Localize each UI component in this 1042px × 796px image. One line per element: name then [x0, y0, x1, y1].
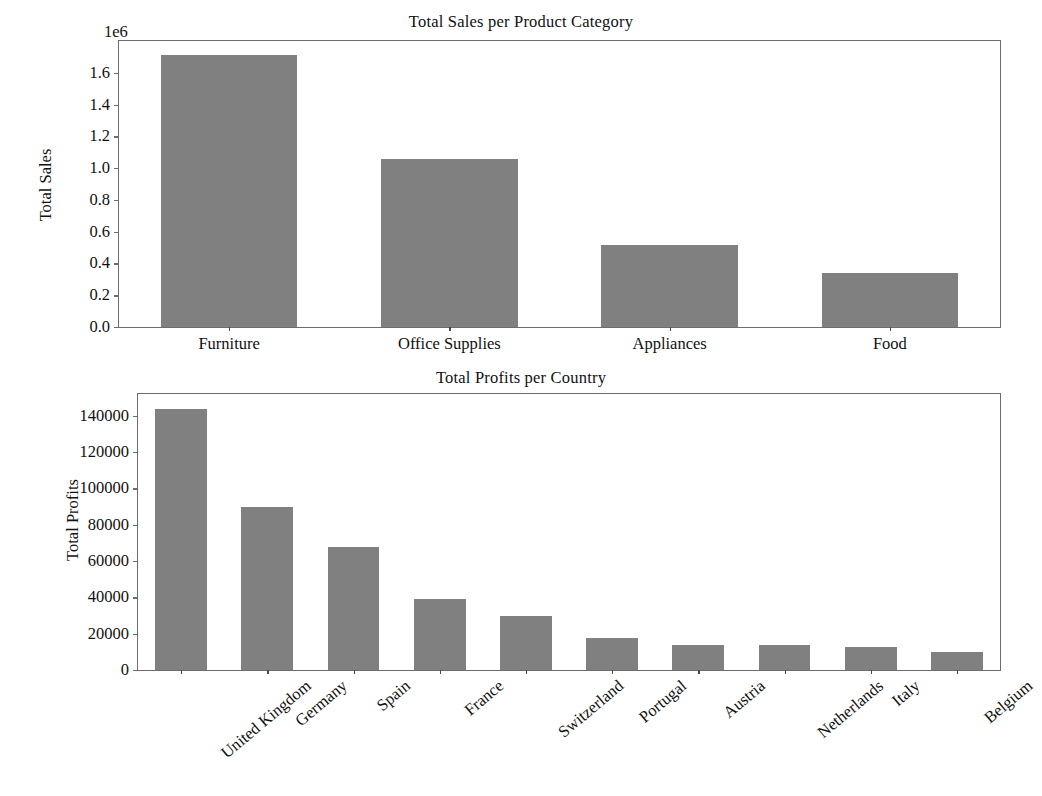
y-axis-tick [133, 525, 138, 526]
chart-panel-profits: Total Profits per Country Total Profits … [0, 360, 1042, 796]
y-axis-tick [114, 168, 119, 169]
y-axis-tick [114, 327, 119, 328]
x-axis-tick [181, 670, 182, 674]
bar [586, 638, 638, 670]
x-axis-tick-label: Belgium [980, 676, 1036, 728]
y-axis-tick [133, 416, 138, 417]
x-axis-tick [267, 670, 268, 674]
bar [241, 507, 293, 670]
y-axis-tick [133, 452, 138, 453]
x-axis-tick-label: Switzerland [554, 676, 627, 742]
chart-title-sales: Total Sales per Product Category [0, 12, 1042, 32]
y-axis-tick-label: 0.8 [89, 190, 110, 210]
y-axis-label-sales: Total Sales [36, 125, 56, 245]
x-axis-tick [957, 670, 958, 674]
plot-area-profits: 020000400006000080000100000120000140000U… [137, 393, 1001, 671]
bar [381, 159, 518, 327]
y-axis-tick-label: 100000 [80, 478, 130, 498]
y-axis-tick-label: 1.0 [89, 158, 110, 178]
y-axis-tick [114, 295, 119, 296]
x-axis-tick-label: Italy [888, 676, 924, 711]
y-axis-tick [133, 488, 138, 489]
x-axis-tick [670, 327, 671, 331]
bar [672, 645, 724, 670]
bar [845, 647, 897, 670]
y-axis-tick [133, 634, 138, 635]
y-axis-tick-label: 1.6 [89, 63, 110, 83]
x-axis-tick-label: Appliances [633, 334, 707, 354]
bar [759, 645, 811, 670]
y-axis-tick [114, 200, 119, 201]
bar [414, 599, 466, 670]
bar-series-profits: 020000400006000080000100000120000140000U… [138, 394, 1000, 670]
x-axis-tick [354, 670, 355, 674]
y-axis-tick-label: 20000 [88, 624, 129, 644]
y-axis-tick-label: 0.4 [89, 253, 110, 273]
y-axis-label-profits: Total Profits [63, 455, 83, 585]
plot-area-sales: 0.00.20.40.60.81.01.21.41.6FurnitureOffi… [118, 40, 1001, 328]
x-axis-tick [449, 327, 450, 331]
y-axis-tick [114, 232, 119, 233]
chart-panel-sales: Total Sales per Product Category 1e6 Tot… [0, 0, 1042, 368]
y-axis-tick [133, 597, 138, 598]
x-axis-tick [698, 670, 699, 674]
y-axis-tick-label: 80000 [88, 515, 129, 535]
bar [161, 55, 298, 327]
y-axis-tick-label: 0.0 [89, 317, 110, 337]
x-axis-tick-label: Furniture [198, 334, 259, 354]
y-axis-tick-label: 1.4 [89, 95, 110, 115]
x-axis-tick-label: France [460, 676, 507, 720]
y-axis-tick-label: 40000 [88, 587, 129, 607]
y-axis-tick-label: 1.2 [89, 126, 110, 146]
bar-series-sales: 0.00.20.40.60.81.01.21.41.6FurnitureOffi… [119, 41, 1000, 327]
x-axis-tick-label: Office Supplies [398, 334, 501, 354]
x-axis-tick-label: Austria [720, 676, 770, 723]
y-axis-tick-label: 0.6 [89, 222, 110, 242]
x-axis-tick [890, 327, 891, 331]
bar [328, 547, 380, 670]
x-axis-tick [440, 670, 441, 674]
x-axis-tick [229, 327, 230, 331]
y-axis-tick [133, 561, 138, 562]
x-axis-tick-label: Netherlands [813, 676, 887, 743]
x-axis-tick-label: Food [873, 334, 907, 354]
y-axis-tick [114, 105, 119, 106]
bar [822, 273, 959, 327]
y-axis-tick-label: 0.2 [89, 285, 110, 305]
x-axis-tick [871, 670, 872, 674]
x-axis-tick-label: Portugal [635, 676, 691, 727]
figure-canvas: Total Sales per Product Category 1e6 Tot… [0, 0, 1042, 796]
y-axis-tick [114, 136, 119, 137]
x-axis-tick-label: Spain [372, 676, 414, 715]
y-axis-tick [114, 73, 119, 74]
x-axis-tick [785, 670, 786, 674]
y-axis-tick-label: 60000 [88, 551, 129, 571]
x-axis-tick [612, 670, 613, 674]
y-axis-tick [114, 263, 119, 264]
y-axis-tick [133, 670, 138, 671]
y-axis-tick-label: 120000 [80, 442, 130, 462]
y-axis-tick-label: 0 [121, 660, 129, 680]
y-axis-tick-label: 140000 [80, 406, 130, 426]
bar [500, 616, 552, 670]
bar [931, 652, 983, 670]
bar [155, 409, 207, 670]
chart-title-profits: Total Profits per Country [0, 368, 1042, 388]
y-axis-offset-text-sales: 1e6 [104, 22, 128, 42]
x-axis-tick [526, 670, 527, 674]
bar [601, 245, 738, 327]
